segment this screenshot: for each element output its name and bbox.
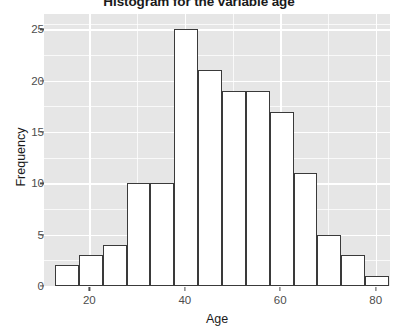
histogram-bar <box>222 91 246 286</box>
histogram-bar <box>365 276 389 286</box>
y-tick-label: 5 <box>4 229 44 241</box>
y-axis-title: Frequency <box>14 77 28 237</box>
histogram-bar <box>341 255 365 286</box>
x-tick-label: 80 <box>352 294 398 306</box>
y-tick-label: 0 <box>4 280 44 292</box>
gridline-minor-horizontal <box>44 55 390 56</box>
y-tick-mark <box>40 183 44 184</box>
histogram-bar <box>55 265 79 286</box>
gridline-minor-horizontal <box>44 24 390 25</box>
histogram-bar <box>79 255 103 286</box>
histogram-bar <box>317 235 341 286</box>
y-tick-mark <box>40 131 44 132</box>
x-axis-title: Age <box>44 312 390 326</box>
y-tick-mark <box>40 285 44 286</box>
y-tick-mark <box>40 234 44 235</box>
y-tick-mark <box>40 29 44 30</box>
x-tick-label: 60 <box>256 294 304 306</box>
histogram-bar <box>103 245 127 286</box>
x-tick-label: 20 <box>65 294 113 306</box>
histogram-bar <box>198 70 222 286</box>
x-tick-label: 40 <box>161 294 209 306</box>
histogram-plot: Histogram for the variable age Age Frequ… <box>0 0 398 335</box>
y-tick-label: 25 <box>4 23 44 35</box>
y-tick-label: 10 <box>4 177 44 189</box>
histogram-bar <box>150 183 174 286</box>
gridline-major-vertical <box>376 14 377 286</box>
x-tick-mark <box>280 287 281 291</box>
histogram-bar <box>270 112 294 286</box>
x-tick-mark <box>89 287 90 291</box>
plot-panel <box>44 14 390 286</box>
gridline-major-horizontal <box>44 29 390 30</box>
gridline-major-vertical <box>89 14 90 286</box>
histogram-bar <box>127 183 151 286</box>
y-tick-mark <box>40 80 44 81</box>
y-tick-label: 15 <box>4 126 44 138</box>
y-tick-label: 20 <box>4 75 44 87</box>
histogram-bar <box>246 91 270 286</box>
histogram-bar <box>174 29 198 286</box>
x-tick-mark <box>184 287 185 291</box>
x-tick-mark <box>375 287 376 291</box>
chart-title: Histogram for the variable age <box>0 0 398 9</box>
histogram-bar <box>294 173 318 286</box>
